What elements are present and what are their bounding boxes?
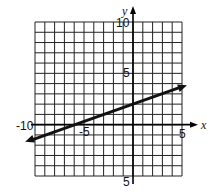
y-tick-label: 5 bbox=[123, 66, 130, 80]
x-tick-label: -5 bbox=[79, 125, 90, 139]
x-tick-label: 5 bbox=[179, 127, 186, 141]
line-arrow-start-icon bbox=[25, 135, 35, 143]
y-tick-label: 5 bbox=[123, 175, 130, 189]
coordinate-plane: xy-10-551055 bbox=[0, 0, 216, 196]
x-axis-arrow-icon bbox=[190, 122, 198, 128]
x-tick-label: -10 bbox=[16, 119, 34, 133]
x-axis-label: x bbox=[200, 118, 207, 132]
y-tick-label: 10 bbox=[116, 16, 130, 30]
y-axis-arrow-icon bbox=[130, 6, 136, 14]
plotted-line bbox=[29, 86, 183, 140]
